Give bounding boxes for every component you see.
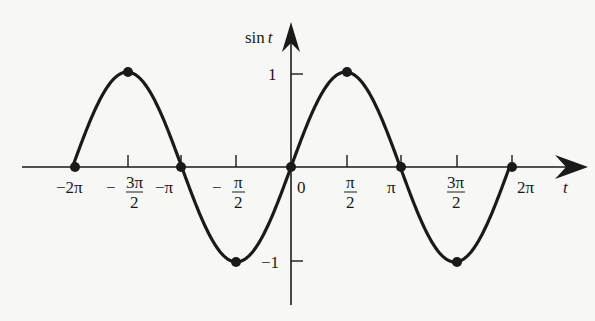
x-tick-label-3pi2-den: 2 [452,193,461,212]
x-tick-label-pi: π [387,178,396,197]
x-tick-label-neg-pi: −π [155,178,174,197]
x-tick-label-neg-pi2-num: π [234,173,243,192]
point-3pi2 [452,257,462,267]
x-tick-label-pi2-num: π [346,173,355,192]
y-tick-label-1: 1 [268,65,277,84]
point-neg-pi [176,162,186,172]
x-tick-label-neg-3pi2-num: 3π [126,173,144,192]
x-tick-label-3pi2-num: 3π [447,173,465,192]
x-tick-label-neg-3pi2-den: 2 [130,193,139,212]
point-pi2 [342,67,352,77]
y-axis-label: sint [245,28,274,47]
x-tick-label-neg-3pi2-sign: − [106,178,116,197]
sine-graph: sint t 1 −1 −2π − 3π 2 −π − π 2 0 π 2 π … [0,0,595,321]
x-tick-label-neg-pi2-den: 2 [234,193,243,212]
point-neg-2pi [70,162,80,172]
point-zero [286,162,296,172]
point-neg-3pi2 [123,67,133,77]
x-tick-label-neg-2pi: −2π [56,178,83,197]
point-pi [396,162,406,172]
x-tick-label-neg-pi2-sign: − [212,178,222,197]
x-tick-label-zero: 0 [297,178,306,197]
x-axis-label: t [563,178,569,197]
x-tick-label-2pi: 2π [517,178,535,197]
y-tick-label-neg-1: −1 [261,253,279,272]
point-2pi [507,162,517,172]
x-tick-label-pi2-den: 2 [346,193,355,212]
point-neg-pi2 [231,257,241,267]
